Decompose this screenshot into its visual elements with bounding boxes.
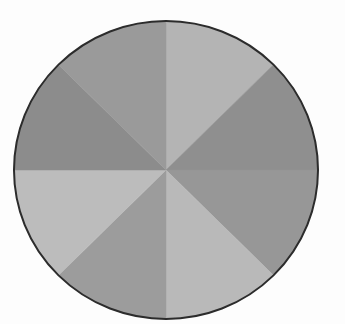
figure-container	[0, 0, 345, 324]
pie-chart	[0, 0, 345, 324]
pie-slice-group	[14, 21, 318, 319]
pie-chart-svg	[0, 0, 345, 324]
